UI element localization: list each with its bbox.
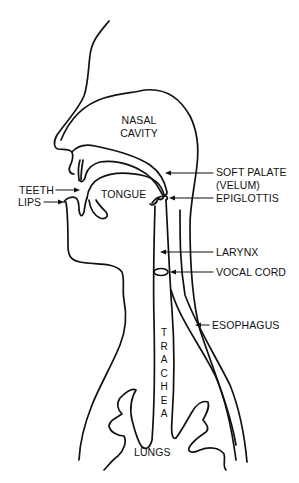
larynx-label: LARYNX xyxy=(216,246,258,258)
trachea-label: T R A C H E A xyxy=(159,326,169,421)
trachea-letter: T xyxy=(159,326,169,340)
epiglottis-label: EPIGLOTTIS xyxy=(216,192,279,204)
lungs-label: LUNGS xyxy=(134,446,171,458)
teeth-label: TEETH xyxy=(19,184,54,196)
right-lung-outline xyxy=(176,402,226,470)
lips-label: LIPS xyxy=(18,196,41,208)
vocal-tract-diagram: NASAL CAVITY SOFT PALATE (VELUM) TEETH L… xyxy=(0,0,299,483)
upper-teeth-outline xyxy=(78,160,83,180)
vocal-cord-arrow-head xyxy=(170,270,176,275)
anatomy-drawing xyxy=(0,0,299,483)
soft-palate-label: SOFT PALATE (VELUM) xyxy=(216,166,287,191)
trachea-letter: H xyxy=(159,380,169,394)
vocal-cord-label: VOCAL CORD xyxy=(216,266,286,278)
larynx-arrow-head xyxy=(160,250,166,255)
nasal-cavity-label: NASAL CAVITY xyxy=(114,114,164,139)
jaw-neck-outline xyxy=(66,202,126,460)
trachea-letter: A xyxy=(159,353,169,367)
vocal-cord-shape xyxy=(154,269,168,276)
nasal-cavity-label-line2: CAVITY xyxy=(114,127,164,139)
tongue-lower-outline xyxy=(89,200,107,219)
epiglottis-arrow-head xyxy=(169,196,175,201)
esophagus-label: ESOPHAGUS xyxy=(212,319,279,331)
trachea-letter: E xyxy=(159,394,169,408)
trachea-letter: R xyxy=(159,340,169,354)
nasal-cavity-outline xyxy=(61,90,236,445)
lips-arrow-head xyxy=(58,200,64,205)
nasal-cavity-label-line1: NASAL xyxy=(114,114,164,126)
trachea-left-wall xyxy=(142,206,155,448)
upper-lip-outline xyxy=(69,152,74,174)
soft-palate-label-line2: (VELUM) xyxy=(216,179,287,191)
nose-outline xyxy=(54,21,109,152)
trachea-letter: A xyxy=(159,407,169,421)
soft-palate-arrow-head xyxy=(165,171,171,176)
soft-palate-label-line1: SOFT PALATE xyxy=(216,166,287,178)
tongue-label: TONGUE xyxy=(101,188,146,200)
teeth-arrow-head xyxy=(74,188,80,193)
trachea-letter: C xyxy=(159,367,169,381)
